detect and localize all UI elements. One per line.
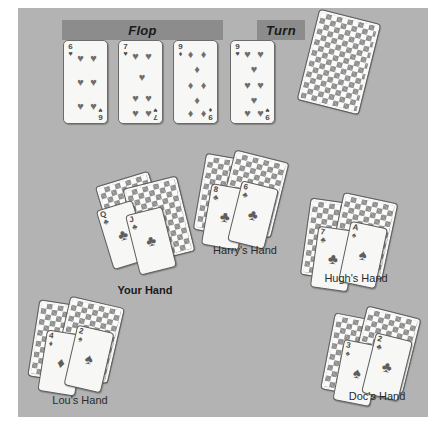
heart-icon: ♥ (139, 72, 146, 82)
heart-icon: ♥ (132, 108, 139, 118)
heart-icon: ♥ (90, 77, 97, 87)
heart-icon: ♥ (77, 77, 84, 87)
stage-banner-flop: Flop (62, 20, 223, 40)
community-card-flop-1[interactable]: 6 ♥ ♥ ♥ ♥ ♥ ♥ ♥ 6 ♥ (63, 40, 108, 124)
card-corner-bottom-right: 7 ♥ (151, 107, 160, 121)
heart-icon: ♥ (257, 49, 264, 59)
card-rank: 7 (151, 114, 160, 121)
club-icon: ♣ (327, 251, 339, 266)
heart-icon: ♥ (251, 95, 258, 105)
hand-lou[interactable]: 4 ♦ ♦ 2 ♠ ♠ (28, 300, 134, 400)
diamond-icon: ♦ (48, 340, 53, 349)
hand-you[interactable]: Q ♣ ♣ J ♣ ♣ (90, 176, 200, 281)
hand-label-lou: Lou's Hand (24, 394, 136, 406)
poker-table-panel: Flop Turn 6 ♥ ♥ ♥ ♥ ♥ ♥ ♥ 6 ♥ 7 ♥ ♥ ♥ (18, 8, 428, 417)
heart-icon: ♥ (145, 93, 152, 103)
club-icon: ♣ (242, 191, 249, 200)
diamond-icon: ♦ (188, 49, 194, 59)
heart-icon: ♥ (77, 53, 84, 63)
diamond-icon: ♦ (194, 95, 200, 105)
diamond-icon: ♦ (188, 108, 194, 118)
heart-icon: ♥ (132, 93, 139, 103)
club-icon: ♣ (376, 343, 383, 352)
stage-banner-turn: Turn (257, 20, 305, 40)
heart-icon: ♥ (145, 51, 152, 61)
hand-harry[interactable]: 8 ♣ ♣ 6 ♣ ♣ (194, 156, 296, 256)
community-card-turn-1[interactable]: 9 ♥ ♥ ♥ ♥ ♥ ♥ ♥ ♥ ♥ 9 ♥ (230, 40, 275, 124)
community-card-flop-3[interactable]: 9 ♦ ♦ ♦ ♦ ♦ ♦ ♦ ♦ ♦ 9 ♦ (173, 40, 218, 124)
hand-label-doc: Doc's Hand (318, 390, 428, 402)
stage-banner-flop-label: Flop (128, 23, 157, 38)
card-corner-bottom-right: 9 ♦ (206, 107, 215, 121)
diamond-icon: ♦ (201, 49, 207, 59)
diamond-icon: ♦ (201, 80, 207, 90)
spade-icon: ♠ (351, 231, 357, 240)
club-icon: ♣ (145, 233, 158, 249)
spade-icon: ♠ (77, 335, 83, 344)
heart-icon: ♥ (244, 108, 251, 118)
club-icon: ♣ (131, 223, 138, 232)
card-rank: 9 (263, 114, 272, 121)
spade-icon: ♠ (84, 351, 95, 366)
hand-label-you: Your Hand (90, 284, 200, 296)
stage-banner-turn-label: Turn (266, 23, 296, 38)
spade-icon: ♠ (352, 365, 362, 380)
heart-icon: ♥ (90, 53, 97, 63)
heart-icon: ♥ (244, 49, 251, 59)
heart-icon: ♥ (77, 101, 84, 111)
heart-icon: ♥ (132, 51, 139, 61)
heart-icon: ♥ (244, 80, 251, 90)
club-icon: ♣ (320, 236, 326, 245)
diamond-icon: ♦ (194, 64, 200, 74)
heart-icon: ♥ (257, 80, 264, 90)
hand-label-hugh: Hugh's Hand (300, 272, 412, 284)
diamond-icon: ♦ (56, 355, 66, 370)
diamond-icon: ♦ (188, 80, 194, 90)
spade-icon: ♠ (345, 350, 351, 359)
card-corner-bottom-right: 6 ♥ (96, 107, 105, 121)
club-icon: ♣ (247, 207, 260, 223)
face-down-deck-card[interactable] (298, 10, 380, 114)
spade-icon: ♠ (358, 247, 369, 262)
club-icon: ♣ (212, 194, 219, 203)
community-card-flop-2[interactable]: 7 ♥ ♥ ♥ ♥ ♥ ♥ ♥ ♥ 7 ♥ (118, 40, 163, 124)
card-rank: 6 (96, 114, 105, 121)
club-icon: ♣ (381, 359, 394, 375)
hand-label-harry: Harry's Hand (186, 244, 304, 256)
card-rank: 9 (206, 114, 215, 121)
card-corner-bottom-right: 9 ♥ (263, 107, 272, 121)
club-icon: ♣ (103, 218, 110, 227)
club-icon: ♣ (219, 209, 231, 224)
heart-icon: ♥ (251, 64, 258, 74)
